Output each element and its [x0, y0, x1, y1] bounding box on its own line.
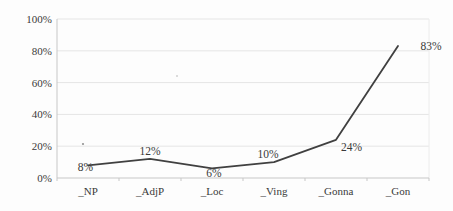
line-chart-figure: 0%20%40%60%80%100%_NP_AdjP_Loc_Ving_Gonn…: [0, 0, 453, 211]
scan-speck: [176, 75, 178, 77]
x-category-label: _Ving: [260, 185, 288, 197]
y-tick-label: 40%: [32, 108, 52, 120]
y-tick-label: 20%: [32, 140, 52, 152]
y-tick-label: 80%: [32, 45, 52, 57]
y-tick-label: 60%: [32, 77, 52, 89]
x-category-label: _AdjP: [135, 185, 164, 197]
y-tick-label: 100%: [26, 13, 52, 25]
data-point-label: 8%: [78, 161, 94, 173]
x-category-label: _Gonna: [318, 185, 354, 197]
x-category-label: _Loc: [200, 185, 224, 197]
data-point-label: 6%: [206, 167, 222, 179]
data-point-label: 10%: [257, 148, 279, 160]
chart-svg: 0%20%40%60%80%100%_NP_AdjP_Loc_Ving_Gonn…: [0, 0, 453, 211]
data-point-label: 83%: [420, 40, 442, 52]
data-point-label: 24%: [341, 141, 363, 153]
scan-speck: [82, 143, 84, 145]
y-tick-label: 0%: [37, 172, 52, 184]
x-category-label: _NP: [77, 185, 98, 197]
x-category-label: _Gon: [385, 185, 411, 197]
data-point-label: 12%: [139, 145, 161, 157]
